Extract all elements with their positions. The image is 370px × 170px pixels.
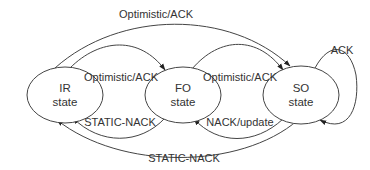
node-fo-label: FO (175, 82, 191, 94)
edge-label-ir-so-top: Optimistic/ACK (119, 8, 194, 20)
node-fo-sublabel: state (171, 96, 196, 108)
edge-label-so-fo-bottom: NACK/update (206, 116, 273, 128)
edge-label-ir-fo-top: Optimistic/ACK (84, 71, 159, 83)
edge-label-so-self: ACK (331, 44, 354, 56)
edge-fo-to-so-top (192, 44, 283, 70)
edge-ir-to-fo-top (70, 45, 165, 70)
node-ir-label: IR (59, 82, 71, 94)
node-so-label: SO (293, 82, 310, 94)
edge-label-so-ir-bottom: STATIC-NACK (148, 152, 220, 164)
edge-label-fo-so-top: Optimistic/ACK (203, 71, 278, 83)
edge-ir-to-so-top (55, 24, 290, 68)
state-diagram: IR state FO state SO state Optimistic/AC… (0, 0, 370, 170)
node-so-sublabel: state (289, 96, 314, 108)
node-ir-sublabel: state (53, 96, 78, 108)
edge-label-fo-ir-bottom: STATIC-NACK (84, 116, 156, 128)
